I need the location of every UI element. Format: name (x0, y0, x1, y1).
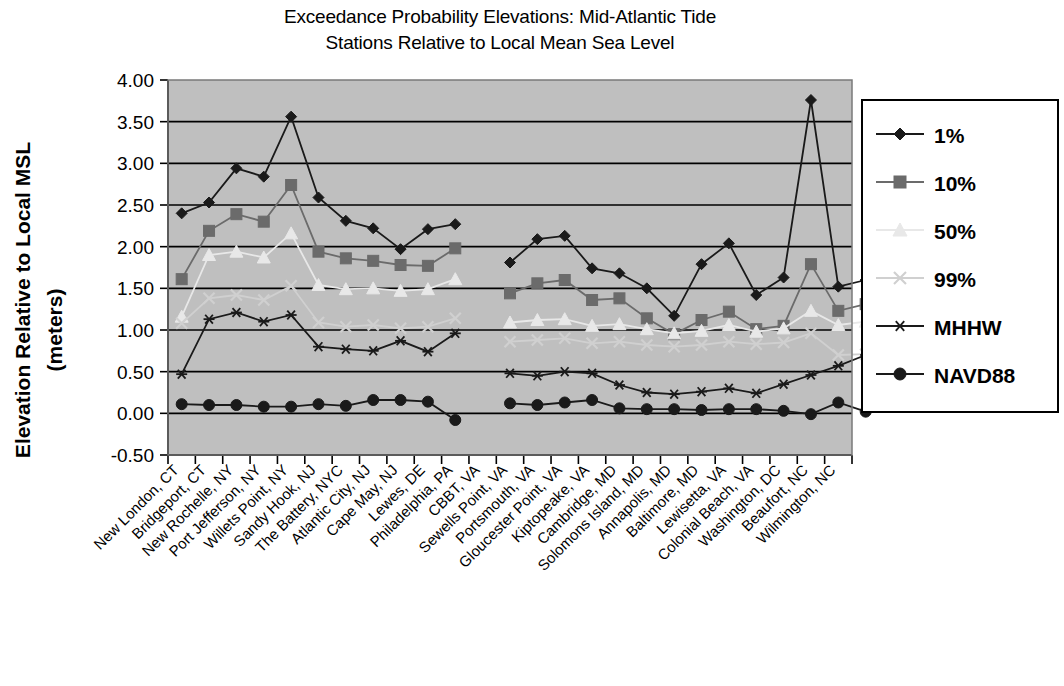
data-point-marker (723, 306, 734, 317)
data-point-marker (614, 293, 625, 304)
legend-label: NAVD88 (934, 364, 1016, 387)
legend-label: 99% (934, 268, 976, 291)
data-point-marker (176, 274, 187, 285)
y-axis: 4.003.503.002.502.001.501.000.500.00-0.5… (111, 70, 168, 466)
data-point-marker (532, 278, 543, 289)
y-tick-label: 1.00 (117, 320, 154, 341)
chart-figure: Exceedance Probability Elevations: Mid-A… (0, 0, 1064, 686)
data-point-marker (313, 246, 324, 257)
y-axis-title-line-2: (meters) (43, 289, 66, 372)
data-point-marker (231, 209, 242, 220)
data-point-marker (395, 395, 406, 406)
y-tick-label: 3.50 (117, 112, 154, 133)
data-point-marker (286, 180, 297, 191)
x-tick-labels: New London, CTBridgeport, CTNew Rochelle… (90, 461, 838, 574)
data-point-marker (422, 396, 433, 407)
data-point-marker (176, 399, 187, 410)
x-axis (168, 455, 852, 464)
data-point-marker (587, 395, 598, 406)
data-point-marker (696, 405, 707, 416)
legend-label: MHHW (934, 316, 1002, 339)
data-point-marker (368, 395, 379, 406)
data-point-marker (258, 216, 269, 227)
data-point-marker (669, 404, 680, 415)
legend-label: 1% (934, 124, 965, 147)
data-point-marker (450, 243, 461, 254)
data-point-marker (614, 403, 625, 414)
data-point-marker (450, 415, 461, 426)
data-point-marker (778, 405, 789, 416)
legend-marker (894, 368, 906, 380)
data-point-marker (805, 409, 816, 420)
data-point-marker (258, 401, 269, 412)
y-tick-label: 4.00 (117, 70, 154, 91)
y-tick-label: -0.50 (111, 445, 154, 466)
chart-legend[interactable]: 1%10%50%99%MHHWNAVD88 (862, 100, 1058, 412)
data-point-marker (559, 275, 570, 286)
legend-label: 10% (934, 172, 976, 195)
data-point-marker (505, 398, 516, 409)
y-tick-label: 1.50 (117, 278, 154, 299)
y-tick-label: 2.50 (117, 195, 154, 216)
legend-label: 50% (934, 220, 976, 243)
data-point-marker (833, 305, 844, 316)
y-tick-label: 0.00 (117, 403, 154, 424)
data-point-marker (286, 401, 297, 412)
data-point-marker (368, 255, 379, 266)
y-tick-label: 0.50 (117, 362, 154, 383)
data-point-marker (422, 260, 433, 271)
data-point-marker (505, 288, 516, 299)
data-point-marker (723, 404, 734, 415)
data-point-marker (395, 260, 406, 271)
data-point-marker (340, 400, 351, 411)
legend-marker (894, 176, 906, 188)
chart-canvas: 4.003.503.002.502.001.501.000.500.00-0.5… (0, 0, 1064, 686)
data-point-marker (204, 400, 215, 411)
data-point-marker (340, 253, 351, 264)
data-point-marker (231, 400, 242, 411)
data-point-marker (833, 397, 844, 408)
data-point-marker (587, 295, 598, 306)
y-tick-label: 3.00 (117, 153, 154, 174)
y-axis-title-line-1: Elevation Relative to Local MSL (11, 142, 34, 458)
data-point-marker (204, 225, 215, 236)
data-point-marker (532, 400, 543, 411)
data-point-marker (641, 404, 652, 415)
y-axis-title: Elevation Relative to Local MSL (meters) (11, 142, 66, 458)
data-point-marker (805, 259, 816, 270)
data-point-marker (313, 399, 324, 410)
y-tick-label: 2.00 (117, 237, 154, 258)
data-point-marker (751, 404, 762, 415)
data-point-marker (559, 397, 570, 408)
